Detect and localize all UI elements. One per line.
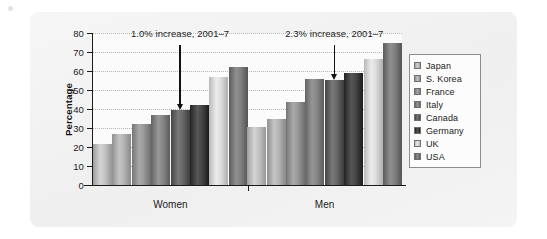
bar-japan-women [93, 144, 112, 185]
legend-label: France [426, 87, 455, 97]
legend: JapanS. KoreaFranceItalyCanadaGermanyUKU… [409, 54, 481, 168]
legend-swatch-icon [414, 140, 421, 147]
legend-swatch-icon [414, 153, 421, 160]
plot-area: 80706050403020100 WomenMen 1.0% increase… [93, 33, 402, 185]
bar-uk-women [209, 77, 228, 185]
bar-france-men [286, 102, 305, 185]
bar-france-women [132, 124, 151, 185]
y-tick-label: 20 [73, 142, 84, 153]
legend-label: Italy [426, 100, 443, 110]
bar-italy-women [151, 115, 170, 185]
y-tick-label: 10 [73, 161, 84, 172]
annotation-arrow-shaft [179, 45, 180, 104]
y-tick-label: 70 [73, 47, 84, 58]
y-axis-line [92, 33, 93, 185]
legend-label: Germany [426, 126, 464, 136]
bar-uk-men [364, 59, 383, 185]
y-tick-label: 80 [73, 28, 84, 39]
bar-s-korea-men [267, 119, 286, 186]
bar-japan-men [247, 127, 266, 185]
legend-swatch-icon [414, 127, 421, 134]
annotation-arrow-shaft [334, 45, 335, 74]
legend-label: S. Korea [426, 74, 462, 84]
x-axis-group-label: Men [315, 199, 334, 210]
legend-item-japan[interactable]: Japan [414, 59, 477, 72]
bar-germany-men [344, 73, 363, 185]
legend-label: USA [426, 152, 445, 162]
chart-figure: Percentage 80706050403020100 WomenMen 1.… [0, 0, 547, 239]
y-tick-label: 40 [73, 104, 84, 115]
legend-swatch-icon [414, 114, 421, 121]
bar-usa-men [383, 43, 402, 186]
legend-label: Japan [426, 61, 451, 71]
x-axis-line [84, 185, 406, 186]
x-axis-group-label: Women [153, 199, 187, 210]
annotation-label: 1.0% increase, 2001–7 [131, 28, 229, 39]
bar-canada-women [171, 110, 190, 185]
bar-germany-women [190, 105, 209, 185]
bar-canada-men [325, 80, 344, 185]
y-tick-label: 60 [73, 66, 84, 77]
y-tick-label: 50 [73, 85, 84, 96]
legend-swatch-icon [414, 75, 421, 82]
annotation-label: 2.3% increase, 2001–7 [285, 28, 383, 39]
legend-item-france[interactable]: France [414, 85, 477, 98]
legend-item-canada[interactable]: Canada [414, 111, 477, 124]
legend-item-s-korea[interactable]: S. Korea [414, 72, 477, 85]
legend-label: UK [426, 139, 439, 149]
legend-item-usa[interactable]: USA [414, 150, 477, 163]
page-speck [8, 6, 13, 11]
gridline [93, 52, 402, 53]
legend-item-italy[interactable]: Italy [414, 98, 477, 111]
legend-swatch-icon [414, 88, 421, 95]
legend-swatch-icon [414, 101, 421, 108]
legend-item-uk[interactable]: UK [414, 137, 477, 150]
y-tick-label: 30 [73, 123, 84, 134]
legend-swatch-icon [414, 62, 421, 69]
legend-item-germany[interactable]: Germany [414, 124, 477, 137]
bar-usa-women [229, 67, 248, 185]
annotation-arrow-head-icon [177, 104, 183, 110]
bar-italy-men [305, 79, 324, 185]
annotation-arrow-head-icon [331, 74, 337, 80]
bar-s-korea-women [112, 134, 131, 185]
legend-label: Canada [426, 113, 458, 123]
